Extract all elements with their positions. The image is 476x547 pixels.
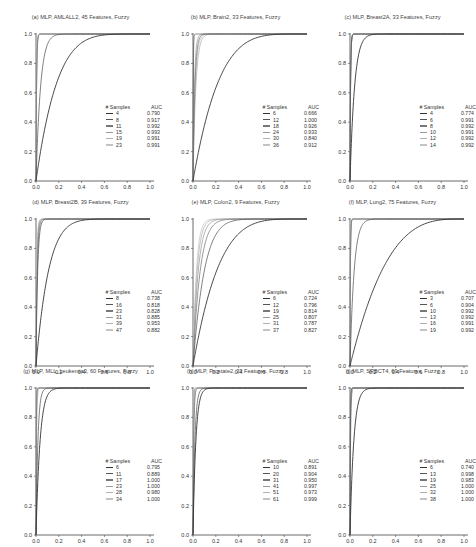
x-tick-label: 0.8 [123,184,131,190]
x-tick-label: 1.0 [460,184,468,190]
x-tick-label: 0.0 [189,538,197,544]
x-tick-label: 0.0 [32,538,40,544]
y-tick-label: 1.0 [181,385,189,391]
legend-swatch [106,144,113,145]
y-tick-label: 0.6 [181,90,189,96]
roc-panel: (d) MLP, Breast2B, 39 Features, Fuzzy0.0… [0,193,157,363]
legend-auc: 0.882 [130,327,160,333]
legend-swatch [106,492,113,493]
legend-swatch [420,329,427,330]
legend: # SamplesAUC30.70760.904100.992130.99216… [400,289,476,333]
legend-swatch [263,304,270,305]
roc-panel: (g) MLP, MLL_Leukemia3, 60 Features, Fuz… [0,362,157,532]
y-tick-label: 0.6 [181,275,189,281]
y-tick-label: 0.0 [24,178,32,184]
y-tick-label: 0.8 [181,414,189,420]
panel-title: (g) MLP, MLL_Leukemia3, 60 Features, Fuz… [8,368,153,374]
legend-entry: 381.000 [400,496,476,502]
y-tick-label: 0.8 [338,60,346,66]
panel-title: (h) MLP, Prostate2, 33 Features, Fuzzy [163,368,308,374]
y-tick-label: 1.0 [181,31,189,37]
x-tick-label: 1.0 [303,538,311,544]
legend-swatch [106,132,113,133]
roc-panel: (h) MLP, Prostate2, 33 Features, Fuzzy0.… [157,362,314,532]
legend-swatch [420,144,427,145]
legend-samples: 38 [430,496,444,502]
x-tick-label: 0.6 [258,184,266,190]
x-tick-label: 0.2 [212,184,220,190]
legend: # SamplesAUC100.891200.904310.950410.997… [243,458,319,502]
legend-samples: 19 [430,327,444,333]
y-tick-label: 0.4 [338,119,346,125]
legend-swatch [420,310,427,311]
y-tick-label: 0.4 [24,119,32,125]
legend-swatch [263,479,270,480]
x-tick-label: 0.0 [32,184,40,190]
legend-swatch [106,498,113,499]
legend-swatch [263,317,270,318]
y-tick-label: 1.0 [338,31,346,37]
y-tick-label: 0.2 [181,149,189,155]
x-tick-label: 0.6 [258,538,266,544]
legend-swatch [263,467,270,468]
legend-swatch [263,498,270,499]
legend: # SamplesAUC40.77460.99180.992100.991120… [400,104,476,148]
x-tick-label: 0.4 [78,538,86,544]
y-tick-label: 0.0 [338,532,346,538]
y-tick-label: 0.2 [24,334,32,340]
y-tick-label: 0.2 [181,334,189,340]
panel-title: (i) MLP, SRBCT4, 69 Features, Fuzzy [320,368,465,374]
legend-swatch [106,467,113,468]
legend-entry: 341.000 [86,496,162,502]
legend-samples: 36 [273,142,287,148]
x-tick-label: 0.0 [346,538,354,544]
legend-swatch [420,138,427,139]
legend: # SamplesAUC60.666121.000180.926240.9333… [243,104,319,148]
x-tick-label: 0.8 [437,538,445,544]
legend-swatch [420,467,427,468]
roc-panel: (c) MLP, Breast2A, 33 Features, Fuzzy0.0… [314,8,471,178]
y-tick-label: 0.2 [338,149,346,155]
legend-swatch [420,486,427,487]
panel-title: (e) MLP, Colon2, 9 Features, Fuzzy [163,199,308,205]
x-tick-label: 1.0 [460,538,468,544]
x-tick-label: 0.4 [392,184,400,190]
legend-auc: 0.992 [444,327,474,333]
legend-auc: 0.991 [130,142,160,148]
legend-swatch [263,138,270,139]
x-tick-label: 1.0 [146,538,154,544]
x-tick-label: 1.0 [146,184,154,190]
y-tick-label: 0.4 [181,304,189,310]
legend-swatch [420,298,427,299]
legend-swatch [106,317,113,318]
x-tick-label: 0.4 [235,184,243,190]
legend-swatch [420,113,427,114]
legend: # SamplesAUC60.795110.889171.000231.0002… [86,458,162,502]
legend-swatch [106,473,113,474]
x-tick-label: 0.2 [369,184,377,190]
legend-entry: 360.912 [243,142,319,148]
legend: # SamplesAUC40.79080.917110.992150.99319… [86,104,162,148]
x-tick-label: 0.6 [415,184,423,190]
y-tick-label: 0.0 [24,532,32,538]
legend-swatch [263,492,270,493]
legend-entry: 610.999 [243,496,319,502]
y-tick-label: 0.4 [24,473,32,479]
legend: # SamplesAUC60.740130.998190.983251.0003… [400,458,476,502]
legend-auc: 1.000 [130,496,160,502]
y-tick-label: 0.8 [181,60,189,66]
legend-swatch [420,498,427,499]
roc-panel: (b) MLP, Brain2, 33 Features, Fuzzy0.00.… [157,8,314,178]
y-tick-label: 0.2 [338,334,346,340]
y-tick-label: 0.4 [181,473,189,479]
y-tick-label: 0.8 [24,414,32,420]
y-tick-label: 0.4 [338,304,346,310]
legend-swatch [263,298,270,299]
legend-auc: 0.992 [444,142,474,148]
y-tick-label: 0.6 [24,90,32,96]
y-tick-label: 0.2 [338,503,346,509]
legend-samples: 61 [273,496,287,502]
y-tick-label: 0.6 [24,444,32,450]
legend-swatch [106,119,113,120]
y-tick-label: 0.0 [181,178,189,184]
